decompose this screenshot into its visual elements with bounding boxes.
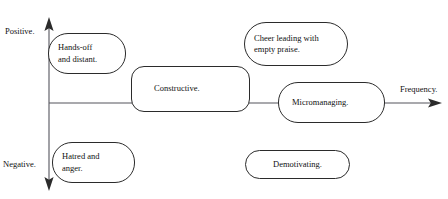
- node-constructive[interactable]: Constructive.: [131, 66, 250, 112]
- node-hands-off-and-distant[interactable]: Hands-off and distant.: [48, 33, 126, 74]
- node-label: Micromanaging.: [279, 97, 354, 109]
- node-demotivating[interactable]: Demotivating.: [245, 150, 350, 179]
- node-label: Constructive.: [132, 83, 206, 95]
- axis-label-frequency: Frequency.: [400, 84, 437, 94]
- node-cheer-leading-with-empty-praise[interactable]: Cheer leading with empty praise.: [244, 22, 348, 66]
- node-label: Hands-off and distant.: [49, 42, 103, 65]
- axis-label-positive: Positive.: [5, 26, 35, 36]
- feedback-quadrant-diagram: Positive. Negative. Frequency. Hands-off…: [0, 0, 448, 199]
- node-label: Demotivating.: [246, 159, 349, 171]
- node-micromanaging[interactable]: Micromanaging.: [278, 82, 385, 123]
- node-label: Cheer leading with empty praise.: [245, 33, 325, 56]
- node-hatred-and-anger[interactable]: Hatred and anger.: [52, 142, 135, 183]
- axis-label-negative: Negative.: [3, 159, 36, 169]
- node-label: Hatred and anger.: [53, 151, 106, 174]
